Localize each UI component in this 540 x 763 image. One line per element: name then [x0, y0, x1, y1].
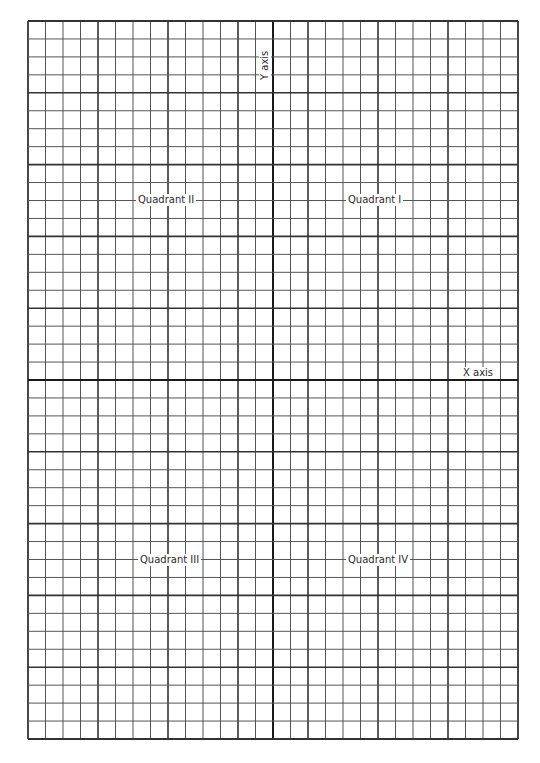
coordinate-grid	[0, 0, 540, 763]
y-axis-label: Y axis	[259, 49, 271, 82]
quadrant-iv-label: Quadrant IV	[346, 554, 410, 566]
x-axis-label: X axis	[461, 367, 495, 379]
quadrant-i-label: Quadrant I	[346, 194, 403, 206]
quadrant-iii-label: Quadrant III	[138, 554, 201, 566]
quadrant-ii-label: Quadrant II	[136, 194, 196, 206]
